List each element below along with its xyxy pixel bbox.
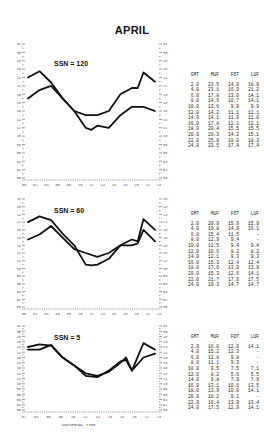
svg-text:12: 12 — [17, 259, 21, 263]
svg-text:24: 24 — [163, 213, 167, 217]
lower-curve — [28, 86, 155, 130]
svg-text:24: 24 — [157, 183, 161, 187]
frequency-table: GMTMUFFOTLUF2.016.012.014.14.015.212.3-6… — [182, 334, 262, 411]
x-axis-label: UNIVERSAL TIME — [62, 423, 96, 427]
table-header: GMTMUFFOTLUF — [182, 211, 262, 217]
table-row: 24.023.517.417.4 — [182, 143, 262, 149]
svg-text:06: 06 — [17, 393, 21, 397]
svg-text:00: 00 — [22, 312, 26, 316]
frequency-chart: 0000020204040606080810101212141416161818… — [0, 195, 180, 320]
svg-text:04: 04 — [163, 290, 167, 294]
svg-text:10: 10 — [163, 134, 167, 138]
frequency-chart: 0000020204040606080810101212141416161818… — [0, 40, 180, 190]
svg-text:06: 06 — [163, 151, 167, 155]
svg-text:16: 16 — [112, 183, 116, 187]
svg-text:02: 02 — [17, 168, 21, 172]
svg-text:20: 20 — [163, 228, 167, 232]
svg-text:02: 02 — [163, 403, 167, 407]
svg-text:28: 28 — [17, 197, 21, 201]
upper-curve — [28, 71, 155, 115]
svg-text:04: 04 — [17, 398, 21, 402]
svg-text:16: 16 — [17, 109, 21, 113]
svg-text:18: 18 — [17, 361, 21, 365]
svg-text:12: 12 — [17, 377, 21, 381]
svg-text:32: 32 — [17, 324, 21, 328]
svg-text:02: 02 — [22, 415, 26, 419]
chart-panel-ssn-60: SSN = 60 0000020204040606080810101212141… — [0, 195, 264, 320]
svg-text:18: 18 — [163, 101, 167, 105]
svg-text:24: 24 — [163, 76, 167, 80]
svg-text:14: 14 — [163, 118, 167, 122]
svg-text:18: 18 — [163, 236, 167, 240]
svg-text:12: 12 — [89, 183, 93, 187]
svg-text:04: 04 — [44, 183, 48, 187]
svg-text:16: 16 — [163, 109, 167, 113]
table-cell: 24.0 — [182, 282, 202, 288]
svg-text:08: 08 — [17, 143, 21, 147]
table-cell: 24.0 — [182, 405, 202, 411]
svg-text:08: 08 — [67, 312, 71, 316]
svg-text:12: 12 — [17, 126, 21, 130]
svg-text:12: 12 — [163, 377, 167, 381]
table-cell: 17.5 — [202, 405, 222, 411]
svg-text:08: 08 — [163, 143, 167, 147]
column-header: MUF — [202, 211, 222, 217]
column-header: FOT — [222, 211, 242, 217]
svg-text:04: 04 — [34, 415, 38, 419]
svg-text:18: 18 — [17, 101, 21, 105]
column-header: FOT — [222, 334, 242, 340]
column-header: MUF — [202, 72, 222, 78]
svg-text:32: 32 — [163, 324, 167, 328]
chart-panel-ssn-120: SSN = 120 000002020404060608081010121214… — [0, 40, 264, 190]
svg-text:30: 30 — [163, 51, 167, 55]
svg-text:14: 14 — [163, 372, 167, 376]
svg-text:12: 12 — [163, 126, 167, 130]
svg-text:14: 14 — [17, 372, 21, 376]
column-header: GMT — [182, 211, 202, 217]
svg-text:20: 20 — [134, 183, 138, 187]
table-cell: 12.9 — [222, 405, 242, 411]
svg-text:02: 02 — [163, 168, 167, 172]
svg-text:04: 04 — [44, 312, 48, 316]
svg-text:22: 22 — [17, 84, 21, 88]
svg-text:10: 10 — [163, 267, 167, 271]
svg-text:22: 22 — [145, 415, 149, 419]
table-cell: 19.3 — [202, 282, 222, 288]
table-cell: 24.0 — [182, 143, 202, 149]
upper-curve — [28, 343, 155, 377]
svg-text:28: 28 — [163, 197, 167, 201]
table-header: GMTMUFFOTLUF — [182, 334, 262, 340]
svg-text:12: 12 — [89, 312, 93, 316]
svg-text:04: 04 — [17, 160, 21, 164]
table-cell: 14.7 — [222, 282, 242, 288]
svg-text:04: 04 — [163, 160, 167, 164]
svg-text:14: 14 — [101, 312, 105, 316]
svg-text:00: 00 — [163, 176, 167, 180]
svg-text:06: 06 — [163, 393, 167, 397]
svg-text:10: 10 — [78, 312, 82, 316]
svg-text:26: 26 — [17, 205, 21, 209]
svg-text:26: 26 — [163, 67, 167, 71]
svg-text:16: 16 — [108, 415, 112, 419]
svg-text:06: 06 — [56, 312, 60, 316]
svg-text:20: 20 — [132, 415, 136, 419]
column-header: LUF — [242, 72, 262, 78]
svg-text:20: 20 — [17, 93, 21, 97]
column-header: LUF — [242, 211, 262, 217]
svg-text:06: 06 — [17, 151, 21, 155]
svg-text:24: 24 — [17, 76, 21, 80]
svg-text:08: 08 — [59, 415, 63, 419]
table-cell: 14.1 — [242, 405, 262, 411]
svg-text:00: 00 — [17, 305, 21, 309]
table-cell: 17.4 — [242, 143, 262, 149]
svg-text:22: 22 — [17, 220, 21, 224]
svg-text:28: 28 — [17, 335, 21, 339]
svg-text:04: 04 — [17, 290, 21, 294]
svg-text:22: 22 — [146, 183, 150, 187]
column-header: LUF — [242, 334, 262, 340]
svg-text:16: 16 — [112, 312, 116, 316]
svg-text:32: 32 — [163, 42, 167, 46]
svg-text:22: 22 — [163, 351, 167, 355]
svg-text:00: 00 — [163, 305, 167, 309]
svg-text:02: 02 — [163, 298, 167, 302]
